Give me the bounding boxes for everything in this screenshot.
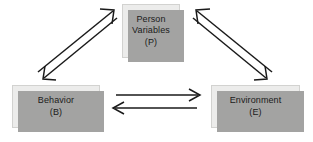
person-node-line-1: Person <box>136 14 165 26</box>
person-variables-node[interactable]: Person Variables (P) <box>122 4 180 58</box>
arrow-environment-to-person <box>196 9 272 72</box>
behavior-node-line-1: Behavior <box>38 95 74 107</box>
arrow-environment-to-behavior <box>113 102 197 114</box>
behavior-node[interactable]: Behavior (B) <box>12 85 100 128</box>
behavior-node-line-2: (B) <box>50 107 62 119</box>
arrow-person-to-environment <box>193 18 267 80</box>
environment-node-line-1: Environment <box>230 95 282 107</box>
diagram-canvas: Person Variables (P) Behavior (B) Enviro… <box>0 0 313 142</box>
person-node-line-3: (P) <box>145 37 157 49</box>
person-node-line-2: Variables <box>132 25 170 37</box>
environment-node-line-2: (E) <box>249 107 261 119</box>
arrow-behavior-to-environment <box>116 89 200 101</box>
arrow-behavior-to-person <box>38 9 114 72</box>
arrow-person-to-behavior <box>43 18 117 80</box>
environment-node[interactable]: Environment (E) <box>211 85 300 128</box>
